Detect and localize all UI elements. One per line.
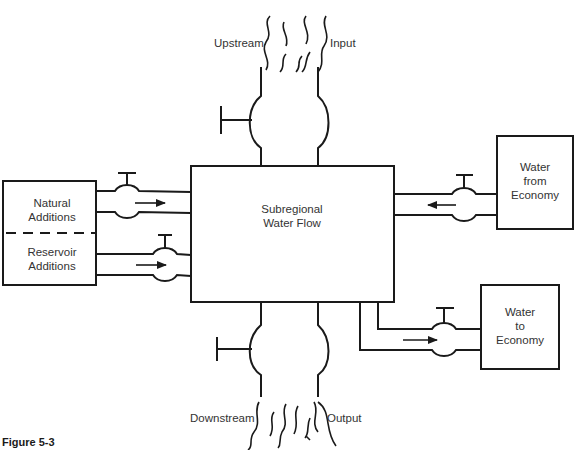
upstream-waves-icon (264, 16, 327, 72)
downstream-pipe (250, 302, 329, 397)
natural-additions-line1: Natural (33, 197, 70, 209)
central-label-line2: Water Flow (263, 217, 321, 229)
water-to-economy-pipe (360, 302, 481, 356)
natural-additions-pipe (96, 173, 191, 218)
reservoir-additions-line1: Reservoir (27, 246, 76, 258)
from-economy-line2: from (524, 175, 547, 187)
central-label-line1: Subregional (261, 203, 322, 215)
input-label: Input (330, 37, 356, 49)
upstream-label: Upstream (214, 37, 264, 49)
from-economy-line3: Economy (511, 189, 559, 201)
water-from-economy-pipe (394, 175, 497, 221)
natural-additions-line2: Additions (28, 211, 76, 223)
water-flow-diagram: Upstream Input Subregional Water Flow Na… (0, 0, 575, 450)
to-economy-line3: Economy (496, 334, 544, 346)
reservoir-additions-pipe (96, 235, 191, 281)
reservoir-additions-line2: Additions (28, 260, 76, 272)
from-economy-line1: Water (520, 161, 550, 173)
to-economy-line1: Water (505, 306, 535, 318)
upstream-valve-handle-icon (221, 106, 252, 134)
figure-caption: Figure 5-3 (2, 436, 55, 448)
subregional-water-flow-box (191, 166, 394, 302)
downstream-waves-icon (248, 402, 336, 450)
output-label: Output (327, 412, 362, 424)
downstream-label: Downstream (190, 412, 255, 424)
upstream-pipe (250, 67, 329, 165)
downstream-valve-handle-icon (217, 337, 252, 361)
to-economy-line2: to (515, 320, 525, 332)
